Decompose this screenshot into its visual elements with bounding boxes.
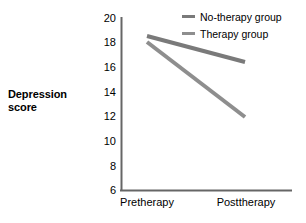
- legend-swatch-icon: [182, 32, 195, 35]
- legend-label: No-therapy group: [200, 11, 282, 23]
- legend-item-therapy-group: Therapy group: [182, 25, 304, 42]
- chart-figure: Depression score 20 18 16 14 12 10 8 6 P…: [0, 0, 306, 223]
- legend-swatch-icon: [182, 15, 195, 18]
- legend-label: Therapy group: [200, 28, 268, 40]
- series-line-therapy-group: [147, 42, 245, 117]
- chart-legend: No-therapy group Therapy group: [182, 8, 304, 42]
- legend-item-no-therapy-group: No-therapy group: [182, 8, 304, 25]
- x-tick-label-pretherapy: Pretherapy: [110, 197, 184, 208]
- x-tick-label-posttherapy: Posttherapy: [208, 197, 284, 208]
